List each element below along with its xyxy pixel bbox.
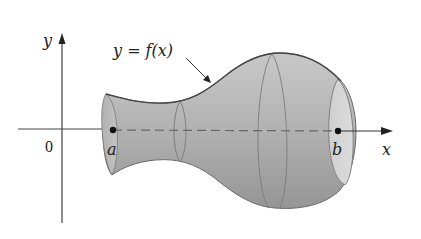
- y-axis-label: y: [42, 31, 53, 50]
- point-a-dot: [110, 127, 116, 133]
- curve-label: y = f(x): [112, 41, 173, 60]
- point-b-dot: [335, 128, 341, 134]
- curve-pointer: [186, 58, 211, 83]
- x-axis-arrow-icon: [381, 127, 393, 135]
- y-axis-arrow-icon: [59, 33, 66, 44]
- x-axis-label: x: [382, 140, 391, 159]
- point-b-label: b: [332, 140, 342, 159]
- y-axis: [59, 33, 66, 223]
- solid-of-revolution-diagram: y 0 a b x y = f(x): [0, 0, 421, 239]
- point-a-label: a: [107, 140, 117, 159]
- origin-label: 0: [45, 138, 53, 155]
